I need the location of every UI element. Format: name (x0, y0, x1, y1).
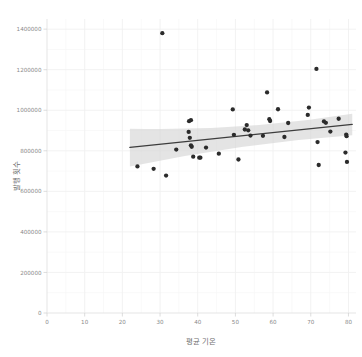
data-point (324, 121, 328, 125)
x-tick-label: 10 (81, 319, 89, 325)
data-point (246, 128, 250, 132)
data-point (198, 156, 202, 160)
data-point (189, 118, 193, 122)
y-tick-label: 0 (38, 310, 42, 316)
data-point (248, 133, 252, 137)
data-point (190, 145, 194, 149)
data-point (236, 157, 240, 161)
data-point (286, 121, 290, 125)
x-tick-label: 20 (119, 319, 127, 325)
data-point (315, 140, 319, 144)
data-point (232, 133, 236, 137)
x-tick-label: 40 (194, 319, 202, 325)
data-point (245, 123, 249, 127)
x-axis-title: 평균 기온 (186, 337, 216, 346)
y-tick-label: 600000 (20, 188, 42, 194)
data-point (217, 151, 221, 155)
plot-canvas: 0200000400000600000800000100000012000001… (0, 0, 362, 357)
data-point (306, 113, 310, 117)
data-point (328, 129, 332, 133)
data-point (314, 67, 318, 71)
data-point (174, 147, 178, 151)
y-tick-label: 1400000 (17, 26, 42, 32)
x-tick-label: 70 (307, 319, 315, 325)
x-tick-label: 60 (270, 319, 278, 325)
data-point (160, 31, 164, 35)
data-point (188, 136, 192, 140)
scatter-plot-figure: 0200000400000600000800000100000012000001… (0, 0, 362, 357)
y-axis-title: 발행 횟수 (12, 161, 21, 191)
y-tick-label: 400000 (20, 229, 42, 235)
y-tick-label: 1200000 (17, 67, 42, 73)
data-point (317, 163, 321, 167)
x-tick-label: 80 (345, 319, 353, 325)
data-point (151, 167, 155, 171)
data-point (343, 150, 347, 154)
data-point (164, 173, 168, 177)
y-tick-label: 1000000 (17, 107, 42, 113)
x-tick-label: 30 (156, 319, 164, 325)
y-tick-label: 200000 (20, 270, 42, 276)
chart-background (0, 0, 362, 357)
x-tick-label: 50 (232, 319, 240, 325)
data-point (307, 105, 311, 109)
data-point (282, 135, 286, 139)
data-point (265, 90, 269, 94)
data-point (231, 107, 235, 111)
data-point (135, 164, 139, 168)
data-point (187, 130, 191, 134)
data-point (204, 145, 208, 149)
data-point (268, 119, 272, 123)
data-point (337, 117, 341, 121)
data-point (345, 160, 349, 164)
data-point (344, 134, 348, 138)
y-tick-label: 800000 (20, 148, 42, 154)
data-point (261, 134, 265, 138)
x-tick-label: 0 (45, 319, 49, 325)
data-point (276, 107, 280, 111)
data-point (191, 155, 195, 159)
